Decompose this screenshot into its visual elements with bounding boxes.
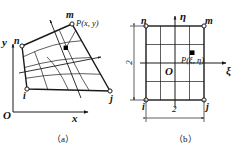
panel-a-node-label-i: i <box>23 91 26 101</box>
panel-b-eta-axis-label: η <box>180 11 186 22</box>
panel-a-axes <box>13 44 88 112</box>
panel-b-xi-axis-label: ξ <box>226 65 231 76</box>
panel-b-node-label-i: i <box>142 102 145 112</box>
panel-b-node-label-j: j <box>206 102 209 112</box>
panel-a-node-label-j: j <box>110 94 113 104</box>
panel-b-origin-label: O <box>165 66 173 77</box>
panel-b-node-label-n: n <box>141 16 147 26</box>
panel-b-interior-point-label: P(ξ, η) <box>181 56 204 65</box>
panel-a-node-label-m: m <box>66 10 74 20</box>
isoparametric-mapping-figure: y x O i j m n P(x, y) （a） η ξ O i j m n … <box>0 0 249 150</box>
panel-a-y-axis-label: y <box>2 37 7 48</box>
local-xi-axis-arrow <box>19 57 101 73</box>
panel-a-interior-point-label: P(x, y) <box>76 19 99 28</box>
panel-b-caption: （b） <box>174 132 197 145</box>
panel-a-node-label-n: n <box>14 36 20 46</box>
node-marker-m <box>70 22 74 26</box>
point-leader-line-a <box>67 30 76 46</box>
panel-a-caption: （a） <box>52 132 74 145</box>
panel-a-graphics <box>13 20 112 112</box>
panel-b-width-dimension-label: 2 <box>172 105 177 114</box>
panel-a-origin-label: O <box>3 110 11 121</box>
panel-a-x-axis-label: x <box>72 113 78 124</box>
panel-b-node-label-m: m <box>205 16 213 26</box>
node-marker-n <box>20 44 24 48</box>
interior-point-marker-a <box>64 46 68 50</box>
panel-b-height-dimension-label: 2 <box>125 60 134 65</box>
